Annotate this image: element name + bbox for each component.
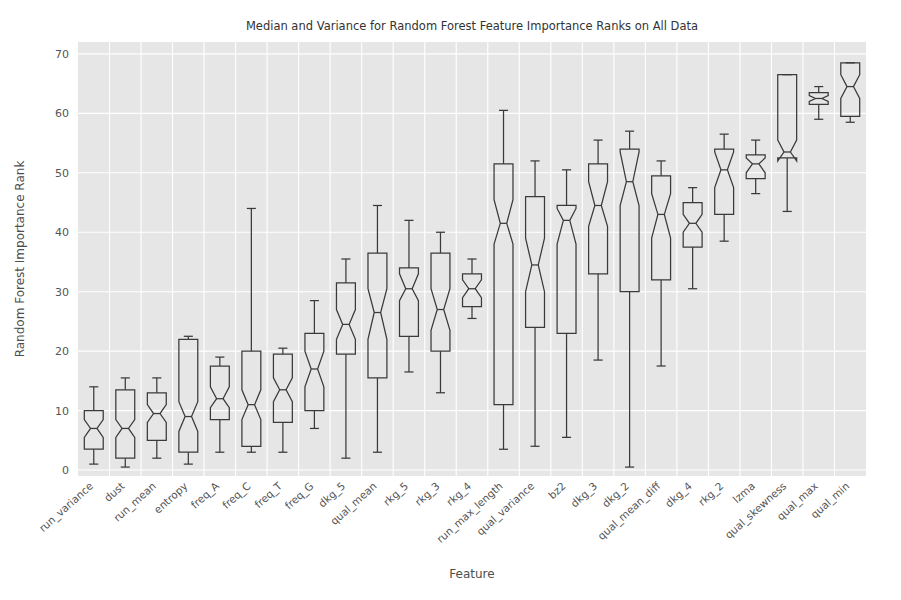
boxplot-chart: 010203040506070 run_variancedustrun_mean…: [0, 0, 901, 600]
y-tick-label: 0: [62, 464, 69, 477]
y-tick-label: 30: [55, 286, 69, 299]
y-tick-label: 70: [55, 48, 69, 61]
y-tick-label: 50: [55, 167, 69, 180]
y-tick-label: 10: [55, 405, 69, 418]
figure-container: 010203040506070 run_variancedustrun_mean…: [0, 0, 901, 600]
y-tick-label: 20: [55, 345, 69, 358]
y-axis-title: Random Forest Importance Rank: [13, 161, 27, 358]
y-tick-label: 40: [55, 226, 69, 239]
x-axis-title: Feature: [449, 567, 494, 581]
chart-title: Median and Variance for Random Forest Fe…: [246, 19, 698, 33]
y-tick-label: 60: [55, 107, 69, 120]
